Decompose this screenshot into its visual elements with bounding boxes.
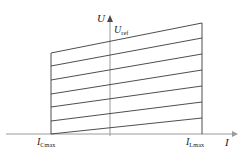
i-lmax-label: ILmax xyxy=(186,137,204,147)
load-line-3 xyxy=(51,54,202,80)
voltage-axis-group xyxy=(107,15,113,136)
i-lmax-subscript: Lmax xyxy=(189,141,204,148)
load-line-6 xyxy=(51,102,202,121)
i-cmax-label: ICmax xyxy=(37,137,56,147)
i-cmax-subscript: Cmax xyxy=(40,141,55,148)
voltage-axis-arrow-icon xyxy=(107,15,113,22)
load-line-7 xyxy=(51,118,202,134)
load-line-2 xyxy=(51,38,202,66)
load-line-5 xyxy=(51,86,202,107)
current-axis-arrow-icon xyxy=(232,131,238,137)
current-axis-label: I xyxy=(225,137,229,148)
load-line-4 xyxy=(51,70,202,94)
u-i-characteristic-figure: U Uref I ICmax ILmax xyxy=(0,0,241,159)
operating-region-group xyxy=(51,23,202,134)
u-ref-subscript: ref xyxy=(121,29,128,36)
load-lines-group xyxy=(51,23,202,134)
u-ref-label: Uref xyxy=(114,25,128,35)
voltage-axis-label: U xyxy=(97,13,105,24)
